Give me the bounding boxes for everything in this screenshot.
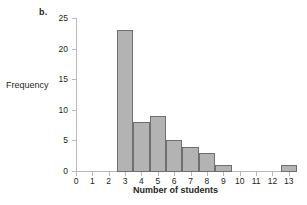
x-tick-label: 13 [280,176,298,186]
y-tick-mark [72,18,76,19]
histogram-bar [182,147,198,172]
x-axis-title: Number of students [0,185,307,195]
y-tick-mark [72,140,76,141]
x-tick-label: 1 [83,176,101,186]
panel-letter-label: b. [39,7,47,17]
histogram-bar [215,165,231,172]
y-tick-mark [72,79,76,80]
x-tick-label: 6 [165,176,183,186]
y-tick-mark [72,110,76,111]
y-axis-title: Frequency [6,80,49,90]
x-tick-label: 8 [198,176,216,186]
x-tick-label: 4 [132,176,150,186]
histogram-bar [166,140,182,172]
y-tick-label: 20 [50,44,68,54]
histogram-bar [281,165,297,172]
plot-area: 0510152025 012345678910111213 [76,18,297,172]
x-tick-label: 7 [182,176,200,186]
y-tick-label: 25 [50,13,68,23]
histogram-bar [199,153,215,172]
histogram-bar [133,122,149,172]
histogram-bar [150,116,166,172]
y-tick-label: 10 [50,105,68,115]
y-tick-mark [72,49,76,50]
histogram-figure: b. Frequency Number of students 05101520… [0,0,307,205]
y-axis-line [76,18,77,172]
x-tick-label: 2 [100,176,118,186]
histogram-bar [117,30,133,172]
x-tick-label: 9 [214,176,232,186]
x-tick-label: 5 [149,176,167,186]
y-tick-label: 5 [50,135,68,145]
y-tick-label: 0 [50,166,68,176]
x-tick-label: 11 [247,176,265,186]
x-tick-label: 10 [231,176,249,186]
y-tick-label: 15 [50,74,68,84]
x-tick-label: 12 [263,176,281,186]
x-axis-title-text: Number of students [133,185,218,195]
x-tick-label: 0 [67,176,85,186]
x-tick-label: 3 [116,176,134,186]
